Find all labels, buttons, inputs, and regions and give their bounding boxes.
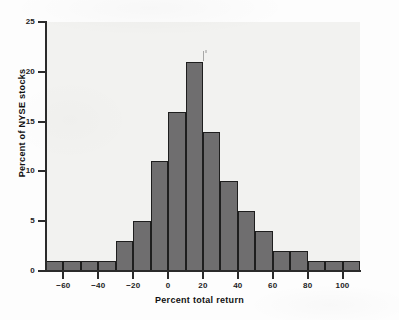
histogram-bar [203,132,220,271]
y-tick-mark [38,270,45,272]
y-tick-mark [38,220,45,222]
y-tick-label: 0 [0,266,35,275]
histogram-bar [255,231,272,271]
x-tick-mark [307,272,309,279]
histogram-bar [273,251,290,271]
y-tick-mark [38,121,45,123]
x-tick-mark [167,272,169,279]
y-tick-label: 25 [0,17,35,26]
scan-speck-icon [203,51,204,61]
x-tick-mark [272,272,274,279]
histogram-bar [290,251,307,271]
histogram-bar [220,181,237,271]
x-tick-mark [62,272,64,279]
x-tick-label: 100 [323,281,363,290]
scan-speck-2-icon [205,50,207,53]
y-axis-line [45,21,47,272]
y-tick-mark [38,21,45,23]
y-tick-mark [38,170,45,172]
histogram-bar [168,112,185,271]
x-tick-mark [97,272,99,279]
x-tick-mark [202,272,204,279]
histogram-bar [151,161,168,271]
histogram-bar [238,211,255,271]
histogram-bar [133,221,150,271]
y-tick-label: 5 [0,216,35,225]
y-axis-title: Percent of NYSE stocks [17,38,27,208]
histogram-bar [116,241,133,271]
x-axis-title: Percent total return [0,295,399,305]
histogram-bar [186,62,203,271]
x-tick-mark [342,272,344,279]
x-tick-mark [132,272,134,279]
y-tick-mark [38,71,45,73]
x-tick-mark [237,272,239,279]
histogram-figure: 0510152025 −60−40−20020406080100 Percent… [0,0,399,320]
